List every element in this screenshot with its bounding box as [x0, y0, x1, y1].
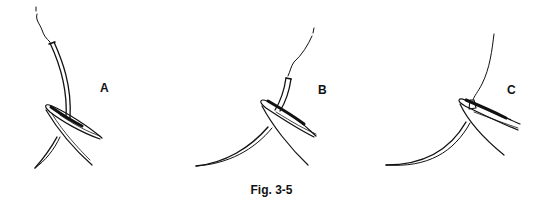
- panel-b-drawing: [196, 28, 316, 166]
- figure-caption: Fig. 3-5: [0, 184, 543, 196]
- panel-label-c: C: [507, 84, 516, 96]
- panel-label-a: A: [100, 82, 109, 94]
- panel-c-drawing: [386, 34, 520, 165]
- panel-a-drawing: [35, 7, 102, 168]
- panel-label-b: B: [318, 84, 327, 96]
- figure-illustration: [0, 0, 543, 206]
- suture-needle-figure: A B C Fig. 3-5: [0, 0, 543, 206]
